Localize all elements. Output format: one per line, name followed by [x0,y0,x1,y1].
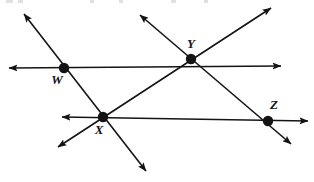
points-group [59,54,273,126]
point-label-w: W [51,72,64,87]
point-x [98,112,108,122]
labels-group: WXYZ [51,36,278,137]
line-through-W-and-Y [9,66,281,68]
lines-group [9,8,308,171]
geometry-canvas: WXYZ [0,0,314,182]
point-label-x: X [94,122,104,137]
point-label-z: Z [269,97,278,112]
geometry-figure: WXYZ [0,0,314,182]
point-z [263,116,273,126]
line-through-Y-and-X [58,8,271,147]
point-y [186,54,196,64]
point-label-y: Y [187,36,196,51]
line-through-W-and-X [24,14,146,171]
